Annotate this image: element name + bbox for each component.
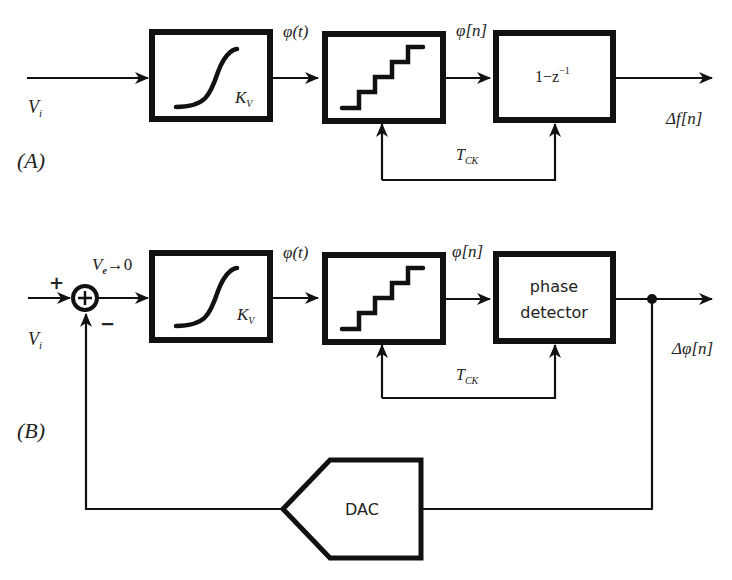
clock-label-a: TCK [456,146,480,166]
phase-t-label-b: φ(t) [283,243,309,262]
error-label: Ve→0 [92,255,132,276]
phase-n-label-b: φ[n] [452,242,483,261]
dac-label: DAC [345,500,379,519]
clock-to-pd-b [382,345,555,398]
pd-label-line1: phase [530,277,578,296]
panel-label-a: (A) [17,148,45,173]
clock-to-diff-a [382,124,555,180]
panel-a: Vi KV φ(t) φ[n] 1−z−1 Δf[n] TCK (A) [17,21,712,180]
phase-t-label-a: φ(t) [283,22,309,41]
plus-sign: + [49,272,64,293]
clock-label-b: TCK [456,366,480,386]
phase-detector-block [496,254,613,341]
panel-b: + Vi − Ve→0 KV φ(t) φ[n] phase detector … [17,242,713,558]
vco-block-b [152,253,270,340]
input-label-a: Vi [28,97,42,119]
feedback-wire-left [86,314,283,509]
output-label-a: Δf[n] [665,109,702,128]
phase-n-label-a: φ[n] [456,21,487,40]
pd-label-line2: detector [520,303,588,322]
output-label-b: Δφ[n] [671,339,713,358]
block-diagram: Vi KV φ(t) φ[n] 1−z−1 Δf[n] TCK (A) + Vi [0,0,732,580]
panel-label-b: (B) [17,418,45,443]
input-label-b: Vi [28,329,42,351]
minus-sign: − [100,313,115,334]
